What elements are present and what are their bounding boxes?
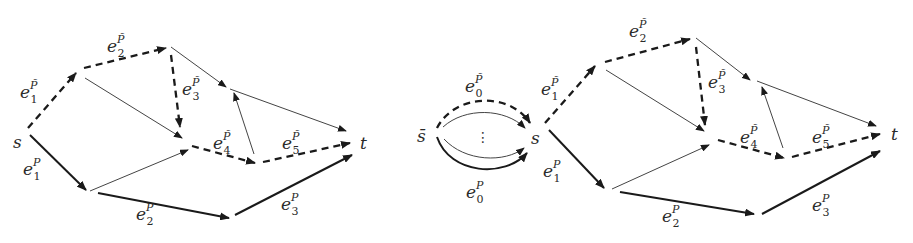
node-label-t: t (360, 133, 367, 153)
thin-edges (606, 38, 876, 189)
diagram-canvas: s t ⋮ s̄ (0, 0, 913, 243)
edge-thin (612, 145, 709, 189)
edge-thin (757, 81, 876, 126)
edge-label: eP̃0 (465, 73, 483, 100)
edge-e3-ptilde (171, 55, 180, 127)
edge-label: eP2 (136, 201, 154, 228)
edge-e2-p (620, 192, 754, 214)
dashed-path-p-tilde (545, 39, 880, 158)
node-label-s-bar: s̄ (417, 126, 426, 146)
edge-label: eP̃2 (107, 33, 125, 60)
edge-thin (762, 87, 783, 148)
edge-label: eP̃4 (213, 130, 231, 157)
node-label-s: s (531, 128, 540, 148)
edge-e5-ptilde (263, 143, 350, 162)
left-graph: s t (13, 47, 367, 218)
edge-label: eP3 (812, 192, 830, 219)
edge-label: eP3 (281, 191, 299, 218)
edge-e2-p (98, 193, 229, 218)
edge-label: eP1 (23, 156, 41, 183)
edge-e3-ptilde (696, 47, 705, 125)
edge-thin-upper (443, 112, 525, 128)
edge-e2-ptilde (84, 48, 166, 68)
edge-label: eP̃4 (740, 124, 758, 151)
edge-thin (234, 93, 254, 154)
edge-e5-ptilde (792, 134, 880, 157)
edge-thin (230, 89, 346, 131)
node-label-s: s (13, 132, 22, 152)
node-label-t: t (891, 124, 898, 144)
edge-label: eP̃1 (541, 76, 559, 103)
edge-labels: eP̃1eP̃2eP̃3eP̃4eP̃5eP1eP2eP3eP̃0eP0eP̃1… (20, 18, 830, 230)
ellipsis-dots: ⋮ (476, 129, 490, 145)
edge-label: eP̃1 (20, 79, 38, 106)
edge-thin (90, 150, 188, 191)
solid-path-p (549, 130, 880, 214)
thin-edges (85, 47, 346, 191)
edge-label: eP0 (466, 179, 484, 206)
edge-label: eP̃3 (708, 69, 726, 96)
edge-label: eP1 (543, 158, 561, 185)
edge-thin (606, 70, 704, 131)
edge-label: eP2 (662, 203, 680, 230)
edge-label: eP̃5 (812, 124, 830, 151)
edge-e2-ptilde (605, 39, 690, 62)
edge-e0-ptilde (437, 101, 530, 128)
edge-label: eP̃5 (282, 130, 300, 157)
edge-label: eP̃2 (629, 18, 647, 45)
dashed-path-p-tilde (28, 48, 350, 163)
edge-label: eP̃3 (182, 76, 200, 103)
edge-thin (85, 78, 182, 138)
solid-path-p (30, 135, 352, 218)
